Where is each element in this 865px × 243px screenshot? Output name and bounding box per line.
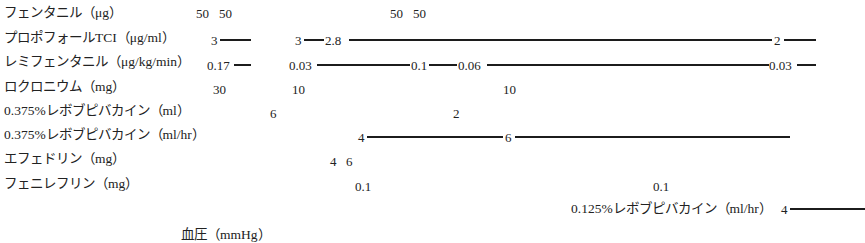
value-ephedrine-2: 6	[346, 155, 353, 168]
value-remifentanil-4: 0.06	[458, 59, 481, 72]
value-rocuronium-1: 30	[213, 83, 226, 96]
value-rocuronium-3: 10	[503, 83, 516, 96]
value-fentanyl-2: 50	[219, 7, 232, 20]
segment-remifentanil-2	[317, 64, 410, 66]
value-fentanyl-3: 50	[390, 7, 403, 20]
segment-levo375mlhr-2	[515, 136, 790, 138]
row-label-fentanyl: フェンタニル（μg）	[4, 6, 122, 20]
row-label-rocuronium: ロクロニウム（mg）	[4, 80, 125, 94]
segment-propofol-3	[349, 39, 772, 41]
value-levo125mlhr-1: 4	[781, 203, 788, 216]
value-propofol-4: 2	[774, 34, 781, 47]
value-levo375mlhr-1: 4	[358, 131, 365, 144]
row-label-ephedrine: エフェドリン（mg）	[4, 152, 125, 166]
value-remifentanil-3: 0.1	[411, 59, 427, 72]
value-propofol-3: 2.8	[325, 34, 341, 47]
axis-label-blood-pressure: 血圧（mmHg）	[181, 228, 271, 242]
segment-remifentanil-5	[797, 64, 816, 66]
segment-levo125mlhr-1	[790, 208, 865, 210]
value-levo375ml-1: 6	[270, 107, 277, 120]
value-levo375mlhr-2: 6	[505, 131, 512, 144]
value-rocuronium-2: 10	[292, 83, 305, 96]
row-label-levobupivacaine-125-mlhr: 0.125%レボブピバカイン（ml/hr）	[571, 202, 772, 216]
segment-remifentanil-3	[429, 64, 457, 66]
value-propofol-2: 3	[295, 34, 302, 47]
segment-remifentanil-4	[487, 64, 769, 66]
segment-propofol-1	[220, 39, 251, 41]
segment-levo375mlhr-1	[367, 136, 503, 138]
segment-propofol-2	[304, 39, 324, 41]
value-remifentanil-2: 0.03	[289, 59, 312, 72]
row-label-phenylephrine: フェニレフリン（mg）	[4, 177, 138, 191]
row-label-levobupivacaine-375-mlhr: 0.375%レボブピバカイン（ml/hr）	[4, 128, 205, 142]
value-fentanyl-1: 50	[196, 7, 209, 20]
value-remifentanil-1: 0.17	[207, 59, 230, 72]
value-remifentanil-5: 0.03	[769, 59, 792, 72]
value-fentanyl-4: 50	[413, 7, 426, 20]
value-phenylephrine-1: 0.1	[355, 180, 371, 193]
anesthesia-drug-timeline: フェンタニル（μg） 50 50 50 50 プロポフォールTCI（μg/ml）…	[0, 0, 865, 243]
row-label-levobupivacaine-375-ml: 0.375%レボブピバカイン（ml）	[4, 104, 190, 118]
segment-remifentanil-1	[234, 64, 251, 66]
value-levo375ml-2: 2	[453, 107, 460, 120]
value-propofol-1: 3	[211, 34, 218, 47]
row-label-remifentanil: レミフェンタニル（μg/kg/min）	[4, 55, 190, 69]
row-label-propofol-tci: プロポフォールTCI（μg/ml）	[4, 31, 175, 45]
value-phenylephrine-2: 0.1	[653, 180, 669, 193]
value-ephedrine-1: 4	[330, 155, 337, 168]
segment-propofol-4	[784, 39, 816, 41]
